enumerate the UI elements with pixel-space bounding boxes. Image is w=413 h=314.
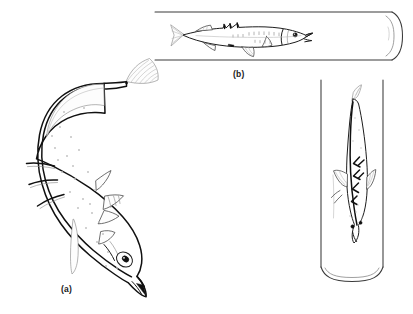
fish-c-left-eye [351,225,354,228]
fish-b-eye-highlight [294,34,295,35]
panel-label-a: (a) [61,284,72,294]
fish-b-dorsal-spine-2 [230,24,231,28]
fish-c-right-eye [359,221,362,224]
figure-root: (a) (b) [0,0,413,314]
fish-a-peduncle-keel [126,82,128,84]
panel-label-b: (b) [233,69,244,79]
stickleback-figure-illustration [0,0,413,314]
fish-b-dorsal-spine-3 [237,23,238,28]
fish-b-dorsal-spine-1 [224,24,225,28]
fish-a-eye-highlight [123,257,125,259]
